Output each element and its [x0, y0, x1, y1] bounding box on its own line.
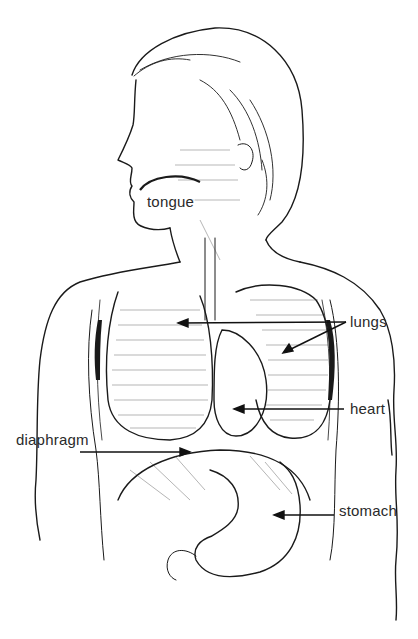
diaphragm-dome	[118, 450, 310, 500]
anatomy-diagram: tongue lungs heart diaphragm stomach	[0, 0, 418, 639]
hair-strands	[134, 54, 273, 215]
label-tongue: tongue	[146, 194, 195, 209]
trachea	[205, 238, 215, 320]
duodenum	[167, 550, 196, 580]
left-lung	[106, 292, 212, 440]
heart-outline	[214, 330, 267, 436]
label-heart: heart	[350, 401, 385, 416]
neck-back	[266, 240, 300, 262]
label-stomach: stomach	[339, 503, 397, 518]
right-lung	[236, 285, 331, 438]
label-lungs: lungs	[350, 314, 387, 329]
label-diaphragm: diaphragm	[16, 432, 89, 447]
hatch-shading	[112, 150, 328, 500]
right-inner-edge	[388, 400, 392, 455]
ear	[238, 144, 253, 170]
neck-front	[170, 228, 180, 262]
